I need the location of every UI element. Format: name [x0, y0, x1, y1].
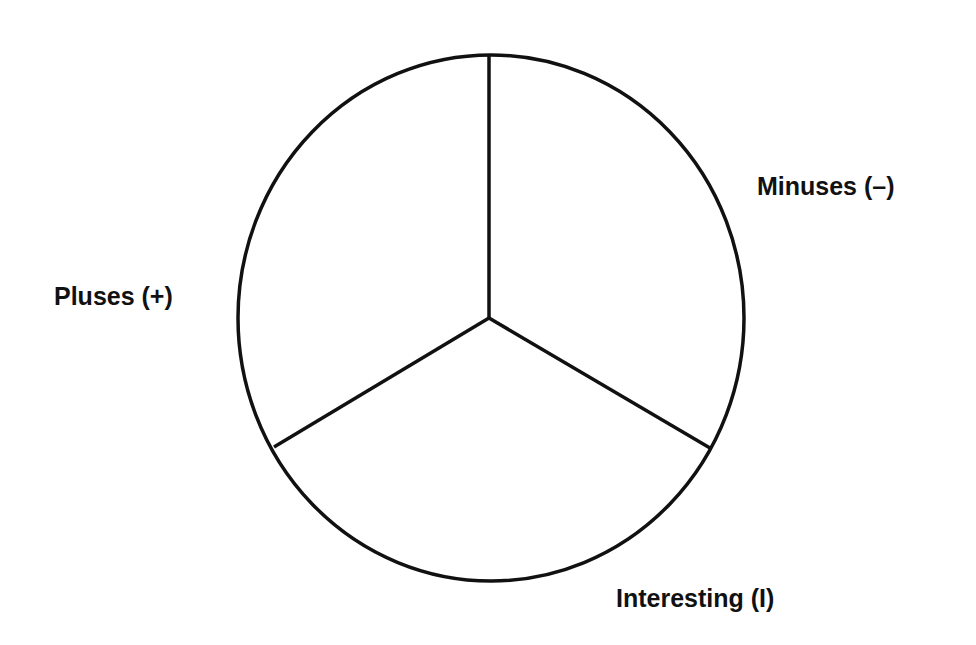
label-minuses: Minuses (–) — [757, 174, 895, 199]
label-interesting: Interesting (I) — [616, 586, 774, 611]
pmi-circle-diagram — [0, 0, 976, 645]
label-pluses: Pluses (+) — [54, 284, 173, 309]
